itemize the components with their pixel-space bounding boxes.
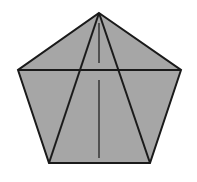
pentagon-diagram bbox=[0, 0, 197, 182]
